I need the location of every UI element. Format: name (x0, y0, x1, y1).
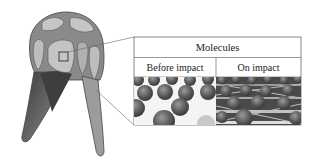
diagram-canvas (0, 0, 319, 168)
before-impact-image (127, 73, 216, 133)
table-title: Molecules (134, 37, 301, 57)
column-label-before-impact: Before impact (134, 58, 216, 77)
column-label-on-impact: On impact (216, 58, 301, 77)
helmet-illustration (22, 12, 104, 156)
on-impact-image (216, 75, 303, 128)
